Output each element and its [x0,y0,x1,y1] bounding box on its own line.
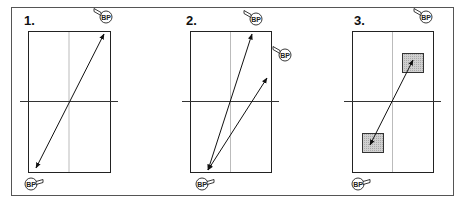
bp-marker-text: BP [251,16,261,23]
bp-marker-icon: BP [352,178,370,190]
bp-marker-text: BP [26,181,36,188]
panel-label: 3. [354,13,365,28]
double-arrow [370,60,413,145]
shaded-target-box [363,134,384,153]
panel-2: 2.BPBPBP [182,11,291,191]
bp-marker-icon: BP [414,9,432,24]
bp-marker-text: BP [197,181,207,188]
panel-1: 1.BPBP [20,9,118,191]
bp-marker-icon: BP [94,9,112,24]
bp-marker-icon: BP [25,178,43,190]
shaded-target-box [403,54,424,73]
bp-marker-text: BP [280,52,290,59]
panel-3: 3.BPBP [344,9,441,191]
double-arrow [208,78,267,170]
bp-marker-icon: BP [196,178,214,190]
panels-group: 1.BPBP2.BPBPBP3.BPBP [20,9,441,191]
bp-marker-icon: BP [244,11,262,26]
bp-marker-text: BP [353,181,363,188]
panel-label: 2. [186,13,197,28]
diagram-canvas: 1.BPBP2.BPBPBP3.BPBP [0,0,465,205]
bp-marker-text: BP [421,14,431,21]
bp-marker-icon: BP [273,47,291,62]
bp-marker-text: BP [101,14,111,21]
panel-label: 1. [24,13,35,28]
